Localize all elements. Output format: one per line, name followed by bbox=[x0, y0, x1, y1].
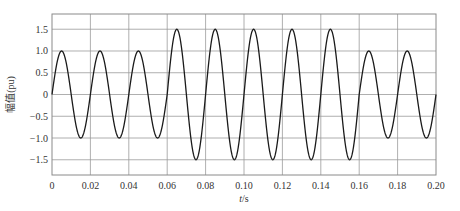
x-tick-label: 0.10 bbox=[235, 180, 253, 191]
x-tick-label: 0.18 bbox=[389, 180, 407, 191]
x-tick-label: 0.04 bbox=[120, 180, 138, 191]
x-tick-label: 0.20 bbox=[427, 180, 445, 191]
y-tick-label: 0 bbox=[43, 89, 48, 100]
x-tick-label: 0.16 bbox=[350, 180, 368, 191]
y-tick-label: −1.0 bbox=[30, 133, 48, 144]
chart: 00.020.040.060.080.100.120.140.160.180.2… bbox=[0, 0, 460, 211]
x-tick-label: 0.12 bbox=[274, 180, 292, 191]
y-tick-label: −0.5 bbox=[30, 111, 48, 122]
y-tick-label: 1.0 bbox=[36, 45, 49, 56]
x-tick-label: 0.08 bbox=[197, 180, 215, 191]
y-axis-label: 幅值(pu) bbox=[4, 76, 17, 113]
y-tick-label: 0.5 bbox=[36, 67, 49, 78]
x-tick-label: 0.02 bbox=[82, 180, 100, 191]
x-axis-label: t/s bbox=[239, 193, 249, 204]
x-tick-label: 0.06 bbox=[158, 180, 176, 191]
y-tick-label: 1.5 bbox=[36, 24, 49, 35]
x-axis-ticks: 00.020.040.060.080.100.120.140.160.180.2… bbox=[50, 180, 445, 191]
x-tick-label: 0.14 bbox=[312, 180, 330, 191]
y-tick-label: −1.5 bbox=[30, 154, 48, 165]
y-axis-ticks: 1.51.00.50−0.5−1.0−1.5 bbox=[30, 24, 48, 166]
x-tick-label: 0 bbox=[50, 180, 55, 191]
